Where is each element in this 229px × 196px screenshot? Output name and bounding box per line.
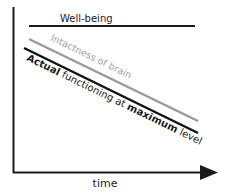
x-axis-arrow-icon — [200, 165, 218, 180]
diagram-canvas: Well-being Intactness of brain Actual fu… — [0, 0, 229, 196]
intactness-line — [29, 39, 198, 121]
x-axis-label: time — [93, 177, 118, 190]
maximum-word: maximum — [125, 101, 179, 135]
well-being-label: Well-being — [60, 13, 113, 24]
actual-word: Actual — [25, 52, 62, 78]
